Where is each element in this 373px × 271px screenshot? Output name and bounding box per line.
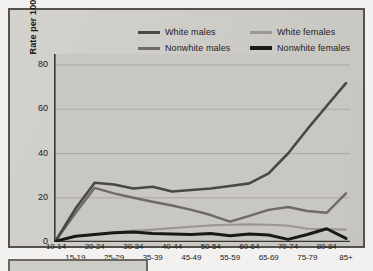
- plot-area: [54, 54, 350, 242]
- x-tick-label: 30-34: [123, 242, 143, 251]
- x-tick-label: 60-64: [239, 242, 259, 251]
- x-tick-label: 40-44: [162, 242, 182, 251]
- legend-item-white-females[interactable]: White females: [250, 24, 335, 40]
- y-tick-label: 20: [22, 192, 48, 202]
- legend-label-nonwhite-females: Nonwhite females: [277, 43, 350, 53]
- y-axis-title: Rate per 100,000 Population: [28, 0, 42, 68]
- legend-swatch-white-females: [250, 31, 272, 34]
- x-tick-label: 10-14: [46, 242, 66, 251]
- bottom-caption-strip: [8, 259, 148, 271]
- x-tick-label: 80-84: [317, 242, 337, 251]
- legend-swatch-white-males: [138, 31, 160, 34]
- x-tick-label: 45-49: [181, 253, 201, 262]
- x-tick-label: 65-69: [259, 253, 279, 262]
- legend-label-white-females: White females: [277, 27, 335, 37]
- legend-swatch-nonwhite-females: [250, 46, 272, 50]
- legend-swatch-nonwhite-males: [138, 47, 160, 50]
- legend-row: White males White females: [138, 24, 358, 40]
- legend-label-white-males: White males: [165, 27, 216, 37]
- y-tick-label: 80: [22, 59, 48, 69]
- x-tick-label: 55-59: [220, 253, 240, 262]
- x-tick-label: 50-54: [201, 242, 221, 251]
- legend-label-nonwhite-males: Nonwhite males: [165, 43, 230, 53]
- y-tick-label: 60: [22, 103, 48, 113]
- x-tick-label: 20-24: [85, 242, 105, 251]
- y-tick-label: 40: [22, 148, 48, 158]
- legend-item-white-males[interactable]: White males: [138, 24, 216, 40]
- x-tick-label: 75-79: [297, 253, 317, 262]
- plot-wrapper: Rate per 100,000 Population 020406080: [54, 54, 350, 242]
- x-tick-label: 70-74: [278, 242, 298, 251]
- x-tick-label: 85+: [339, 253, 352, 262]
- figure: White males White females Nonwhite males…: [0, 0, 373, 271]
- y-tick-label: 0: [22, 236, 48, 246]
- chart-frame: White males White females Nonwhite males…: [8, 8, 365, 248]
